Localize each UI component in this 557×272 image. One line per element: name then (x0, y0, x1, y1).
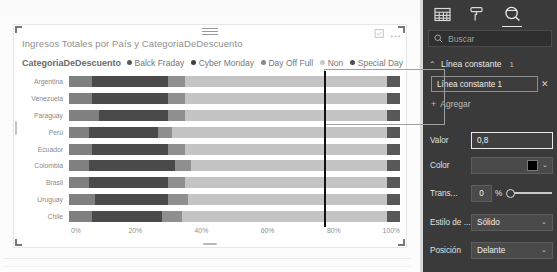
section-header-linea-constante[interactable]: ⌃ Línea constante 1 (429, 56, 555, 72)
bar-segment[interactable] (92, 144, 168, 155)
add-button[interactable]: + Agregar (431, 97, 551, 111)
list-item[interactable]: Línea constante 1 ✕ (431, 76, 551, 92)
stacked-bar[interactable] (69, 127, 400, 138)
resize-handle-bottom-left[interactable] (15, 239, 22, 246)
analytics-magnifier-icon[interactable] (501, 3, 523, 25)
bar-segment[interactable] (69, 93, 92, 104)
stacked-bar[interactable] (69, 177, 400, 188)
constant-line[interactable] (324, 71, 325, 227)
bar-segment[interactable] (387, 211, 400, 222)
table-row[interactable] (69, 141, 400, 158)
bar-segment[interactable] (168, 177, 185, 188)
property-row-color[interactable]: Color ⌄ (427, 155, 553, 175)
bar-segment[interactable] (162, 211, 182, 222)
table-row[interactable] (69, 208, 400, 225)
bar-segment[interactable] (175, 160, 192, 171)
bar-segment[interactable] (168, 110, 185, 121)
legend-item[interactable]: Cyber Monday (191, 58, 254, 68)
more-options-icon[interactable]: ... (390, 30, 401, 37)
visualizations-pane[interactable]: Buscar ⌃ Línea constante 1 Línea constan… (423, 0, 557, 272)
bar-segment[interactable] (89, 127, 159, 138)
chevron-down-icon[interactable]: ⌄ (542, 161, 548, 169)
bar-segment[interactable] (387, 144, 400, 155)
bar-segment[interactable] (99, 110, 169, 121)
property-label-posicion: Posición (427, 246, 471, 255)
bar-segment[interactable] (92, 211, 162, 222)
plot-area[interactable]: ArgentinaVenezuelaParaguayPerúEcuadorCol… (22, 73, 400, 241)
bar-segment[interactable] (69, 127, 89, 138)
color-picker-button[interactable]: ⌄ (471, 157, 553, 174)
table-row[interactable] (69, 174, 400, 191)
visual-header-actions[interactable]: ... (374, 27, 401, 39)
bar-segment[interactable] (387, 127, 400, 138)
visual-scrollbar-vertical[interactable] (15, 121, 17, 135)
table-row[interactable] (69, 191, 400, 208)
bar-segment[interactable] (387, 160, 400, 171)
bar-segment[interactable] (185, 144, 387, 155)
color-swatch-icon[interactable] (527, 160, 538, 171)
bar-segment[interactable] (69, 211, 92, 222)
transparency-input[interactable]: 0 (471, 185, 492, 202)
legend-item[interactable]: Balck Fraday (127, 58, 184, 68)
legend-item[interactable]: Non (320, 58, 343, 68)
bar-segment[interactable] (69, 194, 95, 205)
valor-input[interactable]: 0,8 (471, 132, 553, 149)
legend-swatch-icon (127, 60, 132, 65)
search-input[interactable]: Buscar (428, 30, 552, 47)
resize-handle-top-left[interactable] (15, 26, 22, 33)
table-row[interactable] (69, 124, 400, 141)
bar-segment[interactable] (191, 160, 386, 171)
property-row-valor[interactable]: Valor 0,8 (427, 130, 553, 150)
chevron-up-icon[interactable]: ⌃ (429, 60, 436, 69)
drag-handle-icon[interactable] (202, 28, 218, 35)
bar-segment[interactable] (69, 160, 89, 171)
chevron-down-icon[interactable]: ⌄ (541, 218, 547, 226)
bar-segment[interactable] (182, 211, 387, 222)
legend-item[interactable]: Day Off Full (261, 58, 313, 68)
table-row[interactable] (69, 157, 400, 174)
bar-segment[interactable] (387, 177, 400, 188)
bar-segment[interactable] (168, 76, 185, 87)
stacked-bar-visual[interactable]: ... Ingresos Totales por País y Categori… (13, 24, 407, 248)
bar-segment[interactable] (185, 177, 387, 188)
bar-segment[interactable] (69, 177, 89, 188)
bar-segment[interactable] (387, 194, 400, 205)
stacked-bar[interactable] (69, 194, 400, 205)
transparency-slider[interactable] (506, 185, 553, 202)
slider-knob[interactable] (506, 189, 515, 198)
bar-segment[interactable] (92, 93, 168, 104)
chevron-down-icon[interactable]: ⌄ (541, 246, 547, 254)
format-paint-roller-icon[interactable] (466, 3, 488, 25)
property-row-transparencia[interactable]: Trans... 0 % (427, 183, 553, 203)
stacked-bar[interactable] (69, 160, 400, 171)
bar-segment[interactable] (69, 76, 92, 87)
report-canvas[interactable]: ... Ingresos Totales por País y Categori… (0, 0, 420, 272)
property-row-estilo[interactable]: Estilo de ... Sólido ⌄ (427, 212, 553, 232)
estilo-select[interactable]: Sólido ⌄ (471, 214, 553, 231)
legend-item[interactable]: Special Day (350, 58, 403, 68)
pane-tab-strip[interactable] (423, 0, 557, 28)
posicion-value: Delante (477, 246, 505, 255)
constant-line-name-field[interactable]: Línea constante 1 (431, 76, 538, 92)
bar-segment[interactable] (158, 127, 171, 138)
legend[interactable]: CategoriaDeDescuento Balck Fraday Cyber … (22, 56, 410, 69)
close-icon[interactable]: ✕ (538, 79, 551, 89)
bar-segment[interactable] (92, 76, 168, 87)
bar-segment[interactable] (69, 110, 99, 121)
bar-segment[interactable] (188, 194, 387, 205)
stacked-bar[interactable] (69, 144, 400, 155)
bar-segment[interactable] (89, 177, 168, 188)
bar-segment[interactable] (89, 160, 175, 171)
bar-segment[interactable] (69, 144, 92, 155)
bar-segment[interactable] (168, 144, 185, 155)
focus-mode-icon[interactable] (374, 28, 385, 39)
bar-segment[interactable] (168, 194, 188, 205)
bar-segment[interactable] (95, 194, 168, 205)
property-row-posicion[interactable]: Posición Delante ⌄ (427, 240, 553, 260)
fields-icon[interactable] (431, 3, 453, 25)
visual-scrollbar-horizontal[interactable] (203, 243, 217, 245)
stacked-bar[interactable] (69, 211, 400, 222)
posicion-select[interactable]: Delante ⌄ (471, 242, 553, 259)
bar-segment[interactable] (168, 93, 185, 104)
bar-segment[interactable] (172, 127, 387, 138)
